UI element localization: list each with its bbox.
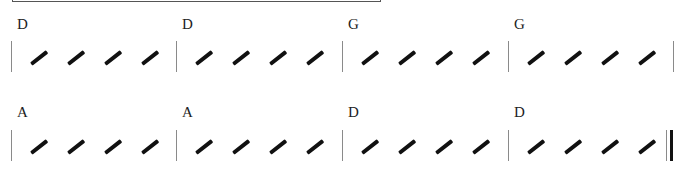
- beat-slash: [269, 50, 287, 65]
- barline: [11, 130, 12, 161]
- barline: [508, 130, 509, 161]
- beat-slash: [472, 50, 490, 65]
- barline: [673, 41, 674, 72]
- beat-slash: [195, 139, 213, 154]
- barline: [11, 41, 12, 72]
- barline: [508, 41, 509, 72]
- beat-slash: [306, 50, 324, 65]
- beat-slash: [67, 50, 85, 65]
- final-barline-thin: [666, 130, 667, 161]
- beat-slash: [306, 139, 324, 154]
- beat-slash: [195, 50, 213, 65]
- barline: [176, 41, 177, 72]
- beat-slash: [601, 139, 619, 154]
- beat-slash: [601, 50, 619, 65]
- chord-symbol: G: [348, 17, 359, 32]
- barline: [342, 130, 343, 161]
- chord-symbol: A: [17, 105, 28, 120]
- beat-slash: [141, 50, 159, 65]
- beat-slash: [141, 139, 159, 154]
- chord-symbol: G: [514, 17, 525, 32]
- beat-slash: [435, 139, 453, 154]
- barline: [342, 41, 343, 72]
- beat-slash: [104, 139, 122, 154]
- barline: [176, 130, 177, 161]
- beat-slash: [527, 50, 545, 65]
- beat-slash: [30, 50, 48, 65]
- beat-slash: [638, 139, 656, 154]
- chord-symbol: D: [17, 17, 28, 32]
- beat-slash: [67, 139, 85, 154]
- staff-system: AADD: [0, 90, 688, 150]
- beat-slash: [232, 139, 250, 154]
- beat-slash: [104, 50, 122, 65]
- beat-slash: [527, 139, 545, 154]
- chord-symbol: A: [182, 105, 193, 120]
- beat-slash: [472, 139, 490, 154]
- beat-slash: [564, 139, 582, 154]
- chord-symbol: D: [182, 17, 193, 32]
- beat-slash: [638, 50, 656, 65]
- staff-system: DDGG: [0, 0, 688, 60]
- beat-slash: [269, 139, 287, 154]
- beat-slash: [564, 50, 582, 65]
- chord-symbol: D: [514, 105, 525, 120]
- final-barline-thick: [670, 130, 673, 161]
- beat-slash: [361, 139, 379, 154]
- beat-slash: [30, 139, 48, 154]
- beat-slash: [232, 50, 250, 65]
- beat-slash: [398, 50, 416, 65]
- beat-slash: [361, 50, 379, 65]
- beat-slash: [398, 139, 416, 154]
- beat-slash: [435, 50, 453, 65]
- chord-symbol: D: [348, 105, 359, 120]
